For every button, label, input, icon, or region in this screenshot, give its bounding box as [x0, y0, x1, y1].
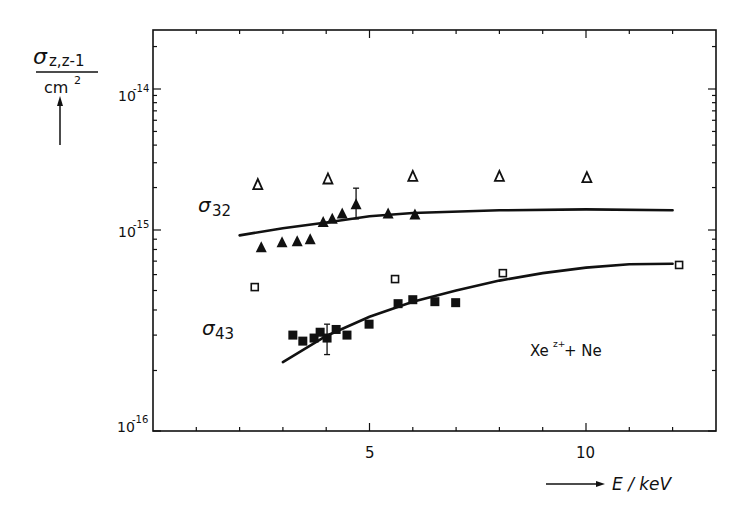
y-label-unit-exponent: 2	[74, 74, 81, 87]
data-point-filled-triangle	[337, 207, 348, 218]
data-point-filled-triangle	[277, 236, 288, 247]
theory-curve	[240, 209, 673, 235]
data-point-filled-square	[342, 331, 351, 340]
data-point-open-square	[676, 261, 683, 268]
data-point-open-triangle	[408, 171, 417, 181]
data-point-open-triangle	[323, 173, 332, 183]
data-point-open-triangle	[253, 179, 262, 189]
data-point-filled-square	[365, 320, 374, 329]
chart: σ z,z-1 cm 2 10 -14 10 -15 10 -16 5 10 E…	[0, 0, 743, 516]
data-point-filled-square	[298, 337, 307, 346]
svg-text:-15: -15	[133, 219, 149, 230]
data-point-filled-square	[451, 298, 460, 307]
y-label-subscript: z,z-1	[49, 52, 84, 70]
data-point-filled-square	[394, 299, 403, 308]
data-point-filled-square	[430, 297, 439, 306]
y-tick-label-1e-15: 10 -15	[118, 219, 149, 240]
data-points	[251, 171, 682, 355]
svg-text:σ: σ	[198, 193, 212, 217]
system-annotation: Xe z+ + Ne	[530, 339, 602, 360]
data-point-open-square	[251, 284, 258, 291]
plot-frame	[153, 30, 716, 431]
svg-text:σ: σ	[202, 316, 216, 340]
data-point-filled-triangle	[305, 233, 316, 244]
y-label-unit: cm	[44, 78, 68, 97]
series-label-sigma43: σ 43	[202, 316, 234, 343]
data-point-filled-square	[408, 295, 417, 304]
data-point-open-triangle	[582, 172, 591, 182]
x-axis-label: E / keV	[546, 474, 673, 494]
svg-text:+ Ne: + Ne	[564, 342, 602, 360]
x-tick-label-5: 5	[365, 444, 375, 462]
y-label-sigma: σ	[33, 44, 48, 69]
series-label-sigma32: σ 32	[198, 193, 231, 220]
arrow-head-right-icon	[596, 481, 605, 487]
x-tick-label-10: 10	[576, 444, 595, 462]
data-point-filled-square	[288, 331, 297, 340]
data-point-open-square	[392, 276, 399, 283]
data-point-open-square	[499, 270, 506, 277]
x-label-text: E / keV	[612, 474, 673, 494]
theory-curve	[283, 264, 673, 363]
svg-text:43: 43	[215, 325, 234, 343]
data-point-filled-square	[332, 325, 341, 334]
data-point-filled-triangle	[327, 213, 338, 224]
svg-text:Xe: Xe	[530, 342, 549, 360]
data-point-filled-triangle	[383, 207, 394, 218]
y-axis-label: σ z,z-1 cm 2	[33, 44, 98, 145]
y-tick-label-1e-16: 10 -16	[117, 414, 148, 435]
svg-text:-16: -16	[132, 414, 148, 425]
data-point-filled-triangle	[292, 235, 303, 246]
data-point-open-triangle	[495, 171, 504, 181]
data-point-filled-triangle	[256, 241, 267, 252]
svg-text:-14: -14	[133, 83, 149, 94]
svg-text:32: 32	[212, 202, 231, 220]
arrow-head-up-icon	[57, 96, 63, 106]
y-tick-label-1e-14: 10 -14	[118, 83, 149, 104]
y-axis-ticks	[153, 47, 716, 431]
